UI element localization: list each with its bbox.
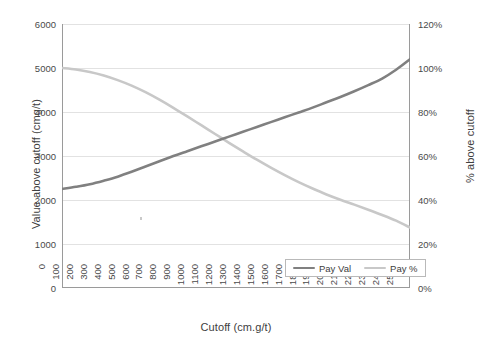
legend-entry: Pay % bbox=[364, 263, 417, 274]
legend-swatch-icon bbox=[364, 267, 386, 270]
legend-label: Pay Val bbox=[319, 263, 351, 274]
plot-area bbox=[62, 24, 410, 288]
series-lines bbox=[62, 59, 410, 227]
chart-container: Value above cutoff (cmg/t) % above cutof… bbox=[0, 0, 480, 342]
legend-label: Pay % bbox=[390, 263, 417, 274]
chart-legend: Pay ValPay % bbox=[285, 259, 426, 277]
legend-entry: Pay Val bbox=[293, 263, 351, 274]
image-artifact bbox=[140, 217, 142, 220]
series-line-pay bbox=[62, 68, 410, 228]
plot-svg bbox=[62, 24, 410, 288]
x-axis-tick-label: 100 bbox=[50, 264, 61, 294]
x-axis-tick-label: 0 bbox=[36, 264, 47, 294]
legend-swatch-icon bbox=[293, 267, 315, 270]
